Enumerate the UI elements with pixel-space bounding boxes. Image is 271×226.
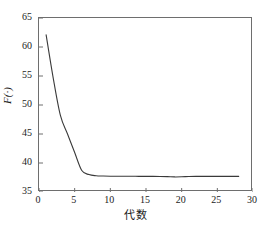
plot-canvas — [39, 18, 253, 192]
data-series-layer — [46, 35, 239, 177]
plot-area — [38, 17, 252, 191]
tick-marks — [39, 18, 253, 192]
chart-figure: 35404550556065 051015202530 F(·) 代数 — [0, 0, 271, 226]
x-tick-label: 10 — [104, 195, 114, 205]
x-axis-title: 代数 — [0, 206, 271, 222]
x-tick-label: 15 — [140, 195, 150, 205]
x-tick-label: 20 — [176, 195, 186, 205]
x-tick-label: 30 — [247, 195, 257, 205]
y-tick-label: 40 — [2, 157, 32, 167]
x-tick-label: 0 — [36, 195, 41, 205]
y-tick-label: 60 — [2, 41, 32, 51]
x-tick-label: 25 — [211, 195, 221, 205]
y-tick-label: 45 — [2, 128, 32, 138]
y-tick-label: 55 — [2, 70, 32, 80]
series-line — [46, 35, 239, 177]
x-tick-label: 5 — [71, 195, 76, 205]
y-axis-title: F(·) — [1, 87, 13, 104]
y-tick-label: 35 — [2, 186, 32, 196]
y-tick-label: 65 — [2, 12, 32, 22]
